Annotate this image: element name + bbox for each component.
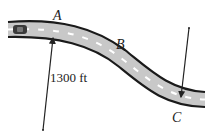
point-a-label: A [53, 9, 62, 23]
point-b-label: B [116, 38, 125, 52]
radius-arrow-c [181, 28, 189, 97]
radius-label: 1300 ft [50, 71, 87, 84]
car-icon [13, 25, 27, 34]
point-c-label: C [172, 111, 181, 125]
road-diagram [0, 0, 216, 133]
